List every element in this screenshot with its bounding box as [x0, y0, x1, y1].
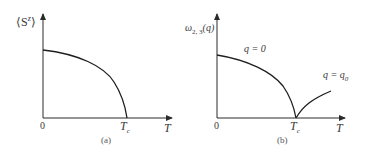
a-tc-label: Tc: [120, 119, 130, 135]
b-annotation-q0: q = 0: [244, 43, 266, 54]
figure-canvas: [0, 0, 366, 155]
b-tc-sub: c: [297, 127, 300, 135]
b-ann-qq0-text: q = q: [323, 69, 345, 80]
a-y-axis-label: ⟨Sz⟩: [16, 14, 36, 30]
a-caption: (a): [101, 135, 111, 145]
b-annotation-qq0: q = q0: [323, 69, 348, 83]
b-ylabel-arg: (q): [203, 22, 215, 33]
b-x-axis-label: T: [336, 121, 343, 136]
b-q0-curve: [217, 55, 296, 118]
a-ylabel-close: ⟩: [31, 15, 36, 29]
b-caption: (b): [277, 135, 288, 145]
a-ylabel-text: ⟨S: [16, 15, 28, 29]
panel-a: [43, 14, 172, 118]
a-order-parameter-curve: [43, 50, 127, 118]
b-tc-text: T: [290, 119, 297, 133]
b-ann-qq0-sub: 0: [345, 75, 349, 83]
a-tc-text: T: [120, 119, 127, 133]
a-origin-label: 0: [40, 120, 45, 131]
a-x-axis-label: T: [164, 121, 171, 136]
b-qq0-curve: [296, 91, 331, 118]
b-ylabel-sub: 2, 3: [192, 28, 203, 36]
b-y-axis-label: ω2, 3(q): [185, 22, 214, 36]
panel-b: [217, 14, 345, 118]
b-ylabel-text: ω: [185, 22, 192, 33]
a-tc-sub: c: [127, 127, 130, 135]
b-origin-label: 0: [214, 120, 219, 131]
b-tc-label: Tc: [290, 119, 300, 135]
